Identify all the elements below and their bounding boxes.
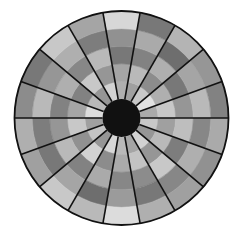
center-hub (103, 99, 141, 137)
polar-heatmap (0, 0, 246, 233)
heatmap-cell (109, 171, 134, 189)
heatmap-cell (103, 206, 140, 225)
heatmap-cell (106, 29, 137, 48)
heatmap-cell (106, 189, 137, 208)
heatmap-cell (103, 11, 140, 30)
heatmap-cell (109, 46, 134, 64)
